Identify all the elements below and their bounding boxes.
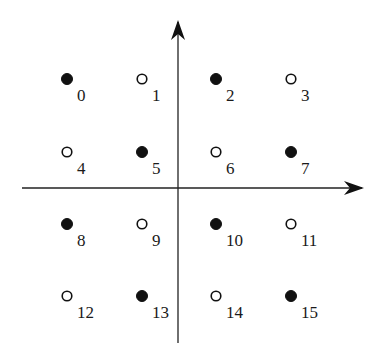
constellation-diagram: 0123456789101112131415 (0, 0, 384, 363)
point-label: 14 (226, 303, 244, 322)
constellation-point: 4 (62, 147, 86, 178)
point-label: 2 (226, 86, 235, 105)
constellation-point: 12 (62, 291, 94, 322)
filled-dot-icon (211, 219, 222, 230)
constellation-point: 9 (137, 219, 160, 250)
hollow-dot-icon (286, 74, 296, 84)
filled-dot-icon (62, 219, 73, 230)
filled-dot-icon (137, 147, 148, 158)
point-label: 15 (301, 303, 318, 322)
hollow-dot-icon (211, 147, 221, 157)
point-label: 8 (77, 231, 86, 250)
constellation-point: 7 (286, 147, 311, 179)
constellation-point: 15 (286, 291, 319, 323)
constellation-point: 8 (62, 219, 86, 251)
hollow-dot-icon (286, 219, 296, 229)
hollow-dot-icon (211, 291, 221, 301)
point-label: 3 (301, 86, 310, 105)
filled-dot-icon (286, 291, 297, 302)
constellation-point: 2 (211, 74, 235, 106)
constellation-point: 5 (137, 147, 161, 179)
point-label: 0 (77, 86, 86, 105)
point-label: 4 (77, 159, 86, 178)
point-label: 5 (152, 159, 161, 178)
constellation-point: 6 (211, 147, 234, 178)
filled-dot-icon (286, 147, 297, 158)
point-label: 10 (226, 231, 243, 250)
filled-dot-icon (211, 74, 222, 85)
constellation-points: 0123456789101112131415 (62, 74, 319, 323)
filled-dot-icon (137, 291, 148, 302)
constellation-point: 1 (137, 74, 160, 105)
point-label: 13 (152, 303, 169, 322)
point-label: 7 (301, 159, 310, 178)
point-label: 12 (77, 303, 94, 322)
constellation-point: 10 (211, 219, 244, 251)
constellation-point: 3 (286, 74, 309, 105)
hollow-dot-icon (137, 219, 147, 229)
filled-dot-icon (62, 74, 73, 85)
constellation-point: 11 (286, 219, 317, 250)
hollow-dot-icon (62, 291, 72, 301)
axes (22, 22, 362, 343)
constellation-point: 14 (211, 291, 243, 322)
point-label: 9 (152, 231, 161, 250)
hollow-dot-icon (62, 147, 72, 157)
constellation-point: 0 (62, 74, 86, 106)
point-label: 6 (226, 159, 235, 178)
point-label: 11 (301, 231, 317, 250)
point-label: 1 (152, 86, 161, 105)
hollow-dot-icon (137, 74, 147, 84)
constellation-point: 13 (137, 291, 170, 323)
